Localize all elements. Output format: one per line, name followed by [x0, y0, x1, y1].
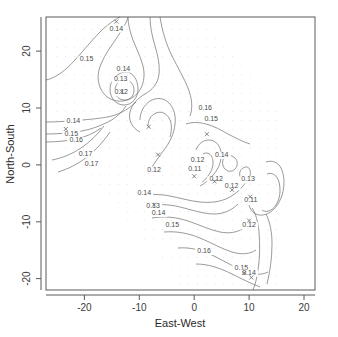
grid-dot — [223, 211, 224, 212]
grid-dot — [171, 156, 172, 157]
grid-dot — [215, 47, 216, 48]
grid-dot — [206, 129, 207, 130]
grid-dot — [162, 193, 163, 194]
x-tick-label: -20 — [77, 302, 92, 313]
grid-dot — [118, 120, 119, 121]
grid-dot — [171, 202, 172, 203]
grid-dot — [188, 238, 189, 239]
grid-dot — [180, 56, 181, 57]
grid-dot — [109, 147, 110, 148]
grid-dot — [180, 266, 181, 267]
contour-right-descend — [252, 208, 260, 290]
grid-dot — [180, 193, 181, 194]
grid-dot — [162, 229, 163, 230]
grid-dot — [127, 156, 128, 157]
grid-dot — [100, 120, 101, 121]
grid-dot — [232, 193, 233, 194]
grid-dot — [276, 202, 277, 203]
grid-dot — [144, 129, 145, 130]
contour-label: 0.14 — [67, 117, 81, 124]
grid-dot — [109, 166, 110, 167]
grid-dot — [206, 275, 207, 276]
grid-dot — [171, 56, 172, 57]
grid-dot — [83, 111, 84, 112]
grid-dot — [136, 111, 137, 112]
grid-dot — [232, 211, 233, 212]
grid-dot — [162, 93, 163, 94]
grid-dot — [144, 156, 145, 157]
grid-dot — [144, 29, 145, 30]
grid-dot — [136, 93, 137, 94]
grid-dot — [206, 147, 207, 148]
grid-dot — [127, 211, 128, 212]
grid-dot — [223, 102, 224, 103]
grid-dot — [65, 84, 66, 85]
grid-dot — [144, 84, 145, 85]
grid-dot — [180, 47, 181, 48]
grid-dot — [144, 93, 145, 94]
grid-dot — [250, 102, 251, 103]
grid-dot — [153, 175, 154, 176]
grid-dot — [232, 65, 233, 66]
grid-dot — [276, 184, 277, 185]
grid-dot — [267, 175, 268, 176]
grid-dot — [223, 266, 224, 267]
grid-dot — [136, 156, 137, 157]
grid-dot — [171, 38, 172, 39]
grid-dot — [215, 220, 216, 221]
grid-dot — [100, 38, 101, 39]
grid-dot — [232, 202, 233, 203]
grid-dot — [180, 175, 181, 176]
grid-dot — [127, 120, 128, 121]
grid-dot — [188, 47, 189, 48]
grid-dot — [215, 84, 216, 85]
grid-dot — [153, 247, 154, 248]
contour-mid-loop-inner — [148, 112, 171, 137]
grid-dot — [215, 102, 216, 103]
grid-dot — [276, 166, 277, 167]
grid-dot — [215, 238, 216, 239]
grid-dot — [136, 56, 137, 57]
grid-dot — [188, 75, 189, 76]
grid-dot — [276, 266, 277, 267]
grid-dot — [206, 220, 207, 221]
grid-dot — [197, 129, 198, 130]
grid-dot — [206, 229, 207, 230]
grid-dot — [100, 29, 101, 30]
grid-dot — [100, 175, 101, 176]
grid-dot — [57, 120, 58, 121]
grid-dot — [127, 147, 128, 148]
grid-dot — [206, 65, 207, 66]
grid-dot — [250, 129, 251, 130]
grid-dot — [180, 65, 181, 66]
grid-dot — [188, 266, 189, 267]
grid-dot — [197, 257, 198, 258]
grid-dot — [206, 211, 207, 212]
contour-label: 0.17 — [79, 150, 93, 157]
grid-dot — [171, 65, 172, 66]
grid-dot — [65, 93, 66, 94]
grid-dot — [65, 75, 66, 76]
grid-dot — [57, 102, 58, 103]
x-tick-label: 20 — [298, 302, 310, 313]
grid-dot — [250, 247, 251, 248]
grid-dot — [232, 147, 233, 148]
grid-dot — [197, 138, 198, 139]
contour-label: 0.17 — [85, 160, 99, 167]
grid-dot — [188, 29, 189, 30]
grid-dot — [127, 175, 128, 176]
grid-dot — [153, 156, 154, 157]
grid-dot — [206, 84, 207, 85]
grid-dot — [171, 175, 172, 176]
grid-dot — [136, 184, 137, 185]
grid-dot — [57, 56, 58, 57]
grid-dot — [180, 211, 181, 212]
grid-dot — [223, 47, 224, 48]
grid-dot — [171, 211, 172, 212]
grid-dot — [232, 138, 233, 139]
grid-dot — [197, 47, 198, 48]
grid-dot — [259, 147, 260, 148]
grid-dot — [65, 102, 66, 103]
grid-dot — [180, 184, 181, 185]
grid-dot — [223, 75, 224, 76]
